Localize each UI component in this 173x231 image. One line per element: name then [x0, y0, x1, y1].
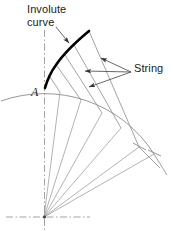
involute-curve-diagram: Involutecurve String A [0, 0, 173, 231]
leader-line-involute [56, 27, 69, 43]
centerlines-group [6, 30, 90, 231]
radial-line [44, 154, 154, 217]
involute-curve-label-line1: Involute [27, 3, 66, 15]
radial-line [44, 128, 121, 217]
radial-line [44, 113, 102, 217]
tangent-tick-marks [133, 143, 161, 156]
diagram-canvas [0, 0, 173, 231]
radial-line [44, 147, 139, 217]
involute-curve-label-line2: curve [27, 16, 54, 28]
string-segment [50, 77, 60, 92]
point-a-label: A [31, 86, 38, 99]
leader-line-string-middle [85, 71, 131, 72]
leader-lines-group [56, 27, 131, 87]
radial-lines-group [44, 92, 154, 217]
radial-line [44, 92, 60, 217]
tangent-tick [133, 143, 146, 150]
radial-line [44, 100, 81, 217]
base-circle-arc [1, 94, 154, 154]
string-segment [74, 45, 121, 128]
involute-curve-label: Involutecurve [27, 3, 66, 28]
string-label: String [134, 62, 163, 75]
leader-line-string-lower [89, 72, 131, 87]
string-segment [89, 31, 139, 147]
center-point [43, 215, 46, 218]
string-segment-extension [139, 147, 160, 168]
